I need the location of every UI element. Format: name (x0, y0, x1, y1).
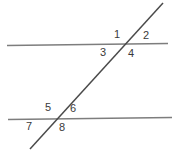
angle-label-1: 1 (114, 29, 120, 40)
angle-label-4: 4 (128, 48, 134, 59)
angle-label-2: 2 (143, 30, 149, 41)
angle-label-7: 7 (26, 121, 32, 132)
angle-label-3: 3 (100, 47, 106, 58)
geometry-figure: 1 2 3 4 5 6 7 8 (0, 0, 176, 155)
angle-label-5: 5 (45, 102, 51, 113)
angle-label-6: 6 (70, 103, 76, 114)
angle-label-8: 8 (59, 122, 65, 133)
